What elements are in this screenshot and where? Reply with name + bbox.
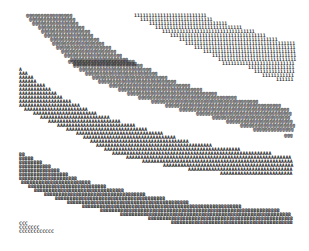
band-one-row: 111111 xyxy=(276,78,293,82)
band-a-upper-row: @@@ xyxy=(284,134,293,138)
band-c-row: CCCCCCCCCCCC xyxy=(19,230,54,234)
band-b-row: BBBBBBBBBBBBBBBBBBBBBBBBBBBBBBBBBBBBBBBB… xyxy=(171,221,293,225)
band-a-row: AAAAAAAAAAAAAAAAAAAAAAAAA xyxy=(220,172,292,176)
band-a-upper-row: @@@@@@@@@@@@@@ xyxy=(253,128,294,132)
character-art-canvas: @@@@@@@@@@@@@@@@@@@@@@@@@@@@@@@@@@@@@@@@… xyxy=(0,0,309,251)
